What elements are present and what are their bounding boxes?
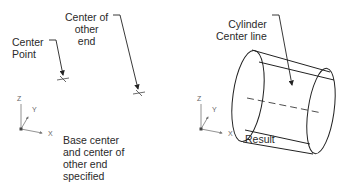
other-end-leader	[113, 15, 138, 89]
other-end-marker-icon	[133, 90, 145, 96]
left-caption: Base center and center of other end spec…	[63, 134, 124, 182]
y-axis-label: Y	[212, 106, 217, 113]
center-point-label: Center Point	[12, 36, 44, 60]
diagram-canvas	[0, 0, 343, 194]
cylinder-shape	[227, 48, 340, 155]
centerline-label: Cylinder Center line	[216, 18, 267, 42]
center-other-end-label: Center of other end	[65, 11, 108, 47]
x-axis-label: X	[48, 130, 53, 137]
z-axis-label: Z	[17, 95, 21, 102]
ucs-axes-icon-left	[20, 104, 43, 133]
ucs-axes-icon-right	[200, 104, 223, 133]
centerline-leader	[272, 15, 292, 85]
z-axis-label: Z	[197, 95, 201, 102]
y-axis-label: Y	[32, 106, 37, 113]
center-point-leader	[49, 40, 63, 75]
x-axis-label: X	[228, 130, 233, 137]
center-point-marker-icon	[57, 76, 69, 82]
result-caption: Result	[245, 133, 275, 145]
